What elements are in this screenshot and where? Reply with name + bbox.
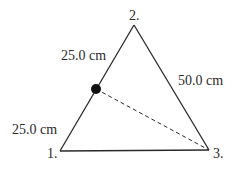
vertex-label-1: 1. [47, 146, 58, 161]
edge-label-right: 50.0 cm [178, 73, 223, 88]
edge-label-lower-left: 25.0 cm [12, 122, 57, 137]
vertex-label-3: 3. [213, 146, 224, 161]
midpoint-dot [91, 84, 101, 94]
triangle-diagram: 2. 1. 3. 25.0 cm 25.0 cm 50.0 cm [0, 0, 240, 169]
side-1-3 [60, 150, 209, 151]
edge-label-upper-left: 25.0 cm [61, 48, 106, 63]
vertex-label-2: 2. [129, 8, 140, 23]
dashed-line-midpoint-to-3 [96, 89, 209, 150]
